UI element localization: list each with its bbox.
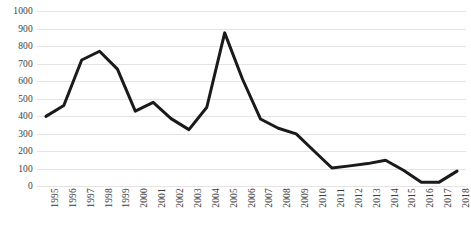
x-tick-label: 2012 xyxy=(354,188,364,208)
y-tick-label: 400 xyxy=(0,111,33,121)
x-tick-label: 2016 xyxy=(425,188,435,208)
y-tick-label: 700 xyxy=(0,59,33,69)
x-tick-label: 2018 xyxy=(461,188,471,208)
data-series-line xyxy=(37,11,466,186)
x-tick-label: 2015 xyxy=(407,188,417,208)
x-tick-label: 2003 xyxy=(193,188,203,208)
y-tick-label: 0 xyxy=(0,181,33,191)
y-tick-label: 500 xyxy=(0,94,33,104)
y-tick-label: 600 xyxy=(0,76,33,86)
x-tick-label: 2017 xyxy=(443,188,453,208)
y-axis: 01002003004005006007008009001000 xyxy=(0,11,33,186)
line-chart: 01002003004005006007008009001000 1995199… xyxy=(0,0,471,228)
x-tick-label: 2005 xyxy=(229,188,239,208)
x-tick-label: 2010 xyxy=(318,188,328,208)
x-tick-label: 2002 xyxy=(175,188,185,208)
x-tick-label: 2006 xyxy=(247,188,257,208)
x-tick-label: 2001 xyxy=(157,188,167,208)
x-tick-label: 2011 xyxy=(336,188,346,207)
chart-title xyxy=(0,0,471,3)
y-tick-label: 300 xyxy=(0,129,33,139)
x-axis: 1995199619971998199920002001200220032004… xyxy=(37,188,466,228)
x-tick-label: 2007 xyxy=(264,188,274,208)
x-tick-label: 2000 xyxy=(139,188,149,208)
y-tick-label: 1000 xyxy=(0,6,33,16)
y-tick-label: 100 xyxy=(0,164,33,174)
y-tick-label: 200 xyxy=(0,146,33,156)
x-tick-label: 1998 xyxy=(104,188,114,208)
x-tick-label: 2009 xyxy=(300,188,310,208)
x-tick-label: 2008 xyxy=(282,188,292,208)
x-tick-label: 2014 xyxy=(390,188,400,208)
y-tick-label: 800 xyxy=(0,41,33,51)
series-polyline xyxy=(46,33,457,182)
x-tick-label: 2004 xyxy=(211,188,221,208)
x-tick-label: 2013 xyxy=(372,188,382,208)
x-tick-label: 1996 xyxy=(68,188,78,208)
plot-area xyxy=(37,11,466,186)
x-tick-label: 1999 xyxy=(121,188,131,208)
x-tick-label: 1997 xyxy=(86,188,96,208)
x-tick-label: 1995 xyxy=(50,188,60,208)
y-tick-label: 900 xyxy=(0,24,33,34)
